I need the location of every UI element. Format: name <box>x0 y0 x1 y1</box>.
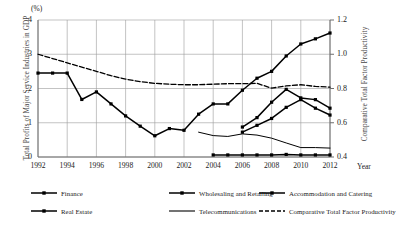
data-point-marker <box>226 102 229 105</box>
line-marker-square-icon <box>258 188 286 198</box>
data-point-marker <box>299 98 302 101</box>
data-point-marker <box>241 89 244 92</box>
data-point-marker <box>285 106 288 109</box>
data-point-marker <box>285 153 288 156</box>
data-point-marker <box>328 31 331 34</box>
data-point-marker <box>197 113 200 116</box>
data-point-marker <box>109 102 112 105</box>
series-line-real-estate <box>242 100 330 133</box>
legend-item[interactable]: Telecommunications <box>168 204 256 218</box>
data-point-marker <box>285 54 288 57</box>
data-point-marker <box>66 71 69 74</box>
data-point-marker <box>241 153 244 156</box>
data-point-marker <box>314 107 317 110</box>
data-point-marker <box>270 101 273 104</box>
data-point-marker <box>299 153 302 156</box>
data-point-marker <box>153 134 156 137</box>
data-point-marker <box>314 153 317 156</box>
data-point-marker <box>314 98 317 101</box>
data-point-marker <box>95 90 98 93</box>
data-point-marker <box>255 153 258 156</box>
data-point-marker <box>139 125 142 128</box>
series-line-telecommunications <box>199 132 330 148</box>
data-point-marker <box>255 116 258 119</box>
data-point-marker <box>226 153 229 156</box>
line-marker-square-icon <box>30 206 58 216</box>
data-point-marker <box>212 102 215 105</box>
data-point-marker <box>255 124 258 127</box>
data-point-marker <box>314 37 317 40</box>
data-point-marker <box>124 114 127 117</box>
line-marker-square-icon <box>168 188 196 198</box>
data-point-marker <box>51 71 54 74</box>
data-point-marker <box>36 71 39 74</box>
data-point-marker <box>182 129 185 132</box>
data-point-marker <box>285 88 288 91</box>
line-plain-icon <box>168 206 196 216</box>
data-point-marker <box>168 127 171 130</box>
data-point-marker <box>241 125 244 128</box>
line-dashed-icon <box>258 206 286 216</box>
data-point-marker <box>270 153 273 156</box>
legend-label: Finance <box>61 190 83 197</box>
line-marker-square-icon <box>30 188 58 198</box>
legend-label: Telecommunications <box>199 208 256 215</box>
legend-label: Real Estate <box>61 208 92 215</box>
legend-label: Comparative Total Factor Productivity <box>289 208 396 215</box>
legend-label: Accommodation and Catering <box>289 190 372 197</box>
data-point-marker <box>255 77 258 80</box>
data-point-marker <box>328 113 331 116</box>
legend-item[interactable]: Accommodation and Catering <box>258 186 372 200</box>
data-point-marker <box>212 153 215 156</box>
data-point-marker <box>328 107 331 110</box>
data-point-marker <box>270 70 273 73</box>
data-point-marker <box>80 98 83 101</box>
legend-item[interactable]: Comparative Total Factor Productivity <box>258 204 396 218</box>
chart-legend: FinanceWholesaling and RetailingAccommod… <box>0 186 388 228</box>
legend-item[interactable]: Real Estate <box>30 204 92 218</box>
data-point-marker <box>270 117 273 120</box>
data-point-marker <box>241 131 244 134</box>
data-point-marker <box>328 153 331 156</box>
data-point-marker <box>299 42 302 45</box>
legend-item[interactable]: Finance <box>30 186 83 200</box>
